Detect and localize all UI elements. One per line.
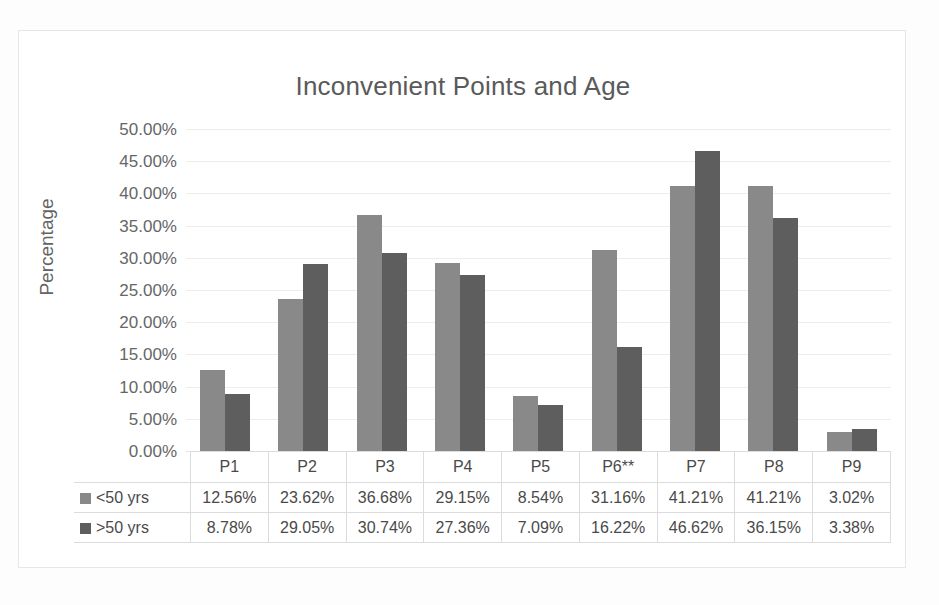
table-cell-value: 3.02% <box>813 483 891 513</box>
table-cell-value: 41.21% <box>657 483 735 513</box>
bars-layer <box>186 129 891 451</box>
table-cell-value: 41.21% <box>735 483 813 513</box>
table-cell-value: 31.16% <box>579 483 657 513</box>
bar-group <box>421 129 499 451</box>
table-cell-value: 8.78% <box>191 513 269 543</box>
table-header-P7: P7 <box>657 452 735 483</box>
bar-P7-series1 <box>670 186 695 451</box>
y-axis-tick-label: 15.00% <box>119 346 177 363</box>
table-cell-value: 3.38% <box>813 513 891 543</box>
bar-group <box>656 129 734 451</box>
table-header-P6: P6** <box>579 452 657 483</box>
table-header-P2: P2 <box>268 452 346 483</box>
table-header-P8: P8 <box>735 452 813 483</box>
y-axis-tick-label: 10.00% <box>119 378 177 395</box>
scanned-page: Inconvenient Points and Age Percentage 5… <box>0 0 939 605</box>
bar-P3-series1 <box>357 215 382 451</box>
table-cell-value: 27.36% <box>424 513 502 543</box>
y-axis-tick-label: 25.00% <box>119 282 177 299</box>
y-axis-tick-label: 45.00% <box>119 153 177 170</box>
table-cell-value: 30.74% <box>346 513 424 543</box>
bar-P7-series2 <box>695 151 720 451</box>
table-cell-value: 36.15% <box>735 513 813 543</box>
table-row: >50 yrs8.78%29.05%30.74%27.36%7.09%16.22… <box>74 513 891 543</box>
chart-frame: Inconvenient Points and Age Percentage 5… <box>18 30 906 568</box>
table-header-P5: P5 <box>502 452 580 483</box>
legend-label: >50 yrs <box>96 519 149 536</box>
bar-P1-series1 <box>200 370 225 451</box>
bar-group <box>734 129 812 451</box>
chart-title: Inconvenient Points and Age <box>19 71 907 102</box>
table-cell-value: 8.54% <box>502 483 580 513</box>
y-axis-tick-label: 30.00% <box>119 249 177 266</box>
table-row-categories: P1P2P3P4P5P6**P7P8P9 <box>74 452 891 483</box>
y-axis-tick-label: 40.00% <box>119 185 177 202</box>
bar-group <box>343 129 421 451</box>
legend-entry-series2: >50 yrs <box>74 513 191 543</box>
y-axis-tick-label: 20.00% <box>119 314 177 331</box>
bar-P3-series2 <box>382 253 407 451</box>
bar-P2-series1 <box>278 299 303 451</box>
table-cell-value: 16.22% <box>579 513 657 543</box>
bar-P2-series2 <box>303 264 328 451</box>
table-cell-value: 29.05% <box>268 513 346 543</box>
bar-P1-series2 <box>225 394 250 451</box>
bar-P6-series2 <box>617 347 642 451</box>
bar-P9-series1 <box>827 432 852 451</box>
bar-P4-series1 <box>435 263 460 451</box>
table-cell-value: 7.09% <box>502 513 580 543</box>
y-axis-tick-label: 5.00% <box>129 410 177 427</box>
bar-P6-series1 <box>592 250 617 451</box>
table-header-P4: P4 <box>424 452 502 483</box>
table-header-P9: P9 <box>813 452 891 483</box>
bar-P8-series1 <box>748 186 773 451</box>
table-cell-value: 12.56% <box>191 483 269 513</box>
table-header-P1: P1 <box>191 452 269 483</box>
y-axis-tick-label: 35.00% <box>119 217 177 234</box>
bar-group <box>499 129 577 451</box>
table-header-P3: P3 <box>346 452 424 483</box>
table-cell-value: 36.68% <box>346 483 424 513</box>
bar-P8-series2 <box>773 218 798 451</box>
bar-P4-series2 <box>460 275 485 451</box>
table-cell-value: 46.62% <box>657 513 735 543</box>
chart-data-table: P1P2P3P4P5P6**P7P8P9<50 yrs12.56%23.62%3… <box>74 451 891 543</box>
table-corner-cell <box>74 452 191 483</box>
table-cell-value: 23.62% <box>268 483 346 513</box>
plot-area-wrapper: 50.00%45.00%40.00%35.00%30.00%25.00%20.0… <box>186 129 891 451</box>
plot-area: 50.00%45.00%40.00%35.00%30.00%25.00%20.0… <box>186 129 891 451</box>
legend-label: <50 yrs <box>96 489 149 506</box>
bar-group <box>186 129 264 451</box>
bar-P9-series2 <box>852 429 877 451</box>
legend-entry-series1: <50 yrs <box>74 483 191 513</box>
legend-swatch-icon <box>80 523 91 534</box>
bar-group <box>578 129 656 451</box>
legend-swatch-icon <box>80 493 91 504</box>
y-axis-tick-label: 50.00% <box>119 121 177 138</box>
y-axis-title: Percentage <box>36 167 58 327</box>
bar-group <box>264 129 342 451</box>
table-cell-value: 29.15% <box>424 483 502 513</box>
bar-P5-series2 <box>538 405 563 451</box>
table-row: <50 yrs12.56%23.62%36.68%29.15%8.54%31.1… <box>74 483 891 513</box>
bar-P5-series1 <box>513 396 538 451</box>
bar-group <box>813 129 891 451</box>
